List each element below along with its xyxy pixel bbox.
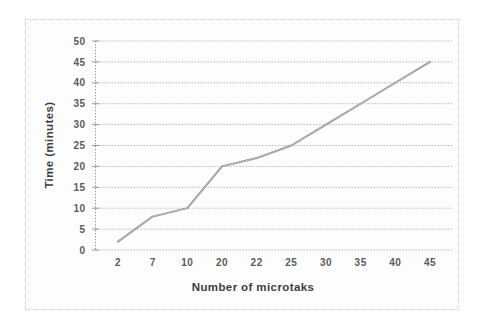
x-axis-tick-label: 35 xyxy=(355,257,367,268)
y-axis-tick-label: 10 xyxy=(73,203,85,214)
y-axis-tick-label: 35 xyxy=(73,98,85,109)
y-axis-tick-label: 0 xyxy=(79,245,85,256)
y-axis-tick-label: 30 xyxy=(73,119,85,130)
x-axis-tick-label: 20 xyxy=(216,257,228,268)
chart-figure: 05101520253035404550 271020222530354045 … xyxy=(0,0,484,329)
x-axis-tick-label: 25 xyxy=(285,257,297,268)
y-axis-tick-label: 5 xyxy=(79,224,85,235)
y-axis-tick-label: 40 xyxy=(73,77,85,88)
gridlines xyxy=(92,41,452,250)
x-axis-tick-label: 22 xyxy=(251,257,263,268)
x-axis-tick-label: 2 xyxy=(115,257,121,268)
y-axis-title: Time (minutes) xyxy=(43,101,55,188)
x-axis-tick-label: 30 xyxy=(320,257,332,268)
y-axis-tick-label: 50 xyxy=(73,36,85,47)
x-axis-title: Number of microtaks xyxy=(192,281,315,293)
x-axis-tick-label: 10 xyxy=(181,257,193,268)
x-axis-tick-label: 7 xyxy=(150,257,156,268)
y-axis-tick-label: 20 xyxy=(73,161,85,172)
x-axis-tick-label: 45 xyxy=(424,257,436,268)
y-axis-tick-label: 15 xyxy=(73,182,85,193)
y-axis-tick-label: 25 xyxy=(73,140,85,151)
y-axis-tick-label: 45 xyxy=(73,57,85,68)
plot-area-wrapper: 05101520253035404550 271020222530354045 … xyxy=(0,0,484,329)
data-series-line-highlight xyxy=(118,62,430,242)
y-axis-tick-labels: 05101520253035404550 xyxy=(73,36,85,256)
line-chart: 05101520253035404550 271020222530354045 … xyxy=(0,0,484,329)
x-axis-tick-label: 40 xyxy=(389,257,401,268)
x-axis-tick-labels: 271020222530354045 xyxy=(115,257,436,268)
